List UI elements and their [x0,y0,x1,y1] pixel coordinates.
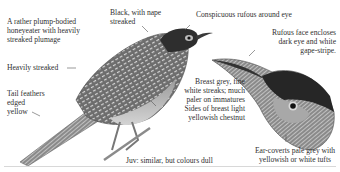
annotation-back: Heavily streaked [7,63,58,72]
bottom-divider [4,166,336,167]
annotation-juvenile: Juv: similar, but colours dull [126,156,213,165]
annotation-crown: Black, with nape streaked [110,8,161,26]
annotation-overview: A rather plump-bodied honeyeater with he… [7,17,80,44]
annotation-breast-sides: Sides of breast light yellowish chestnut [160,104,245,122]
annotation-tail: Tail feathers edged yellow [7,89,45,116]
annotation-eye: Conspicuous rufous around eye [196,10,292,19]
annotation-face: Rufous face encloses dark eye and white … [272,28,336,55]
annotation-ear-coverts: Ear-coverts pale grey with yellowish or … [250,146,340,164]
annotation-breast: Breast grey, fine white streaks; much pa… [165,77,245,104]
